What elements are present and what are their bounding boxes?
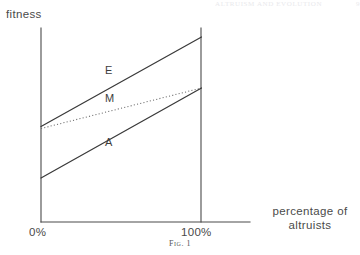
x-axis-label: percentage of altruists bbox=[262, 204, 358, 232]
figure-container: ALTRUISM AND EVOLUTION 9 fitness E M A 0… bbox=[0, 0, 360, 255]
series-line-a bbox=[41, 88, 202, 178]
x-tick-label-0: 0% bbox=[29, 226, 46, 238]
figure-caption-number: 1 bbox=[186, 239, 191, 248]
series-line-e bbox=[41, 37, 202, 127]
figure-caption-prefix: Fig. bbox=[169, 239, 184, 248]
series-label-a: A bbox=[105, 136, 113, 148]
series-label-e: E bbox=[105, 64, 113, 76]
figure-caption: Fig. 1 bbox=[0, 239, 360, 248]
x-axis-label-line2: altruists bbox=[262, 218, 358, 232]
x-tick-label-100: 100% bbox=[181, 226, 212, 238]
x-axis-label-line1: percentage of bbox=[273, 205, 348, 217]
series-label-m: M bbox=[105, 92, 114, 104]
series-line-m bbox=[41, 88, 202, 129]
